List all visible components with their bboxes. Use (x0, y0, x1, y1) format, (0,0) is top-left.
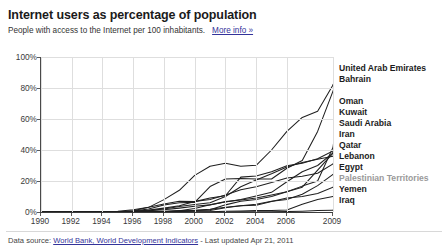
x-axis-tick-label: 1990 (31, 217, 49, 226)
x-axis-tick-label: 2006 (277, 217, 295, 226)
legend-item-oman[interactable]: Oman (339, 96, 363, 106)
x-axis-tick-mark (255, 213, 256, 216)
y-axis-tick-label: 60% (3, 115, 37, 124)
gridline-vertical (72, 57, 73, 212)
gridline-horizontal (41, 88, 333, 89)
series-line[interactable] (41, 164, 333, 212)
gridline-vertical (287, 57, 288, 212)
chart-header: Internet users as percentage of populati… (8, 8, 438, 36)
y-axis-tick-label: 100% (3, 53, 37, 62)
footer-divider (6, 231, 442, 232)
footer-source-prefix: Data source: (8, 236, 51, 245)
legend-item-iraq[interactable]: Iraq (339, 195, 355, 205)
page-title: Internet users as percentage of populati… (8, 8, 438, 23)
legend-item-lebanon[interactable]: Lebanon (339, 151, 375, 161)
legend-item-yemen[interactable]: Yemen (339, 184, 367, 194)
x-axis-tick-label: 1994 (92, 217, 110, 226)
x-axis-tick-label: 1992 (62, 217, 80, 226)
legend-item-united-arab-emirates[interactable]: United Arab Emirates (339, 63, 426, 73)
x-axis-tick-mark (71, 213, 72, 216)
gridline-horizontal (41, 150, 333, 151)
data-source-link[interactable]: World Bank, World Development Indicators (53, 236, 198, 245)
gridline-horizontal (41, 181, 333, 182)
x-axis-tick-mark (132, 213, 133, 216)
legend-item-saudi-arabia[interactable]: Saudi Arabia (339, 118, 391, 128)
plot-frame (40, 57, 333, 213)
chart-subtitle-row: People with access to the Internet per 1… (8, 25, 438, 36)
x-axis-tick-mark (40, 213, 41, 216)
x-axis-tick-mark (224, 213, 225, 216)
x-axis-tick-mark (332, 213, 333, 216)
legend-item-kuwait[interactable]: Kuwait (339, 107, 367, 117)
gridline-vertical (102, 57, 103, 212)
x-axis-tick-mark (101, 213, 102, 216)
x-axis-tick-label: 2000 (184, 217, 202, 226)
x-axis-tick-mark (163, 213, 164, 216)
y-axis-tick-label: 20% (3, 177, 37, 186)
gridline-vertical (256, 57, 257, 212)
x-axis-tick-mark (286, 213, 287, 216)
gridline-vertical (41, 57, 42, 212)
gridline-horizontal (41, 119, 333, 120)
gridline-vertical (164, 57, 165, 212)
x-axis-tick-label: 2002 (215, 217, 233, 226)
series-lines (41, 57, 333, 212)
y-axis-labels: 0%20%40%60%80%100% (0, 57, 37, 212)
series-line[interactable] (41, 85, 333, 212)
x-axis-tick-mark (194, 213, 195, 216)
chart-subtitle: People with access to the Internet per 1… (8, 26, 205, 35)
gridline-vertical (333, 57, 334, 212)
more-info-link[interactable]: More info » (212, 26, 253, 35)
gridline-vertical (225, 57, 226, 212)
legend-item-egypt[interactable]: Egypt (339, 162, 363, 172)
x-axis-tick-label: 2009 (323, 217, 341, 226)
legend-item-palestinian-territories[interactable]: Palestinian Territories (339, 173, 429, 183)
plot-area (41, 57, 333, 212)
y-axis-tick-label: 40% (3, 146, 37, 155)
legend-item-qatar[interactable]: Qatar (339, 140, 361, 150)
x-axis-labels: 1990199219941996199820002002200420062009 (40, 213, 340, 227)
gridline-vertical (195, 57, 196, 212)
x-axis-tick-label: 1996 (123, 217, 141, 226)
legend-item-bahrain[interactable]: Bahrain (339, 74, 371, 84)
footer-updated-text: - Last updated Apr 21, 2011 (200, 236, 293, 245)
chart-footer: Data source: World Bank, World Developme… (8, 236, 293, 246)
legend-item-iran[interactable]: Iran (339, 129, 355, 139)
series-line[interactable] (41, 91, 333, 212)
x-axis-tick-label: 1998 (154, 217, 172, 226)
y-axis-tick-label: 80% (3, 84, 37, 93)
chart-widget: Internet users as percentage of populati… (0, 0, 448, 251)
gridline-vertical (133, 57, 134, 212)
gridline-horizontal (41, 57, 333, 58)
x-axis-tick-label: 2004 (246, 217, 264, 226)
